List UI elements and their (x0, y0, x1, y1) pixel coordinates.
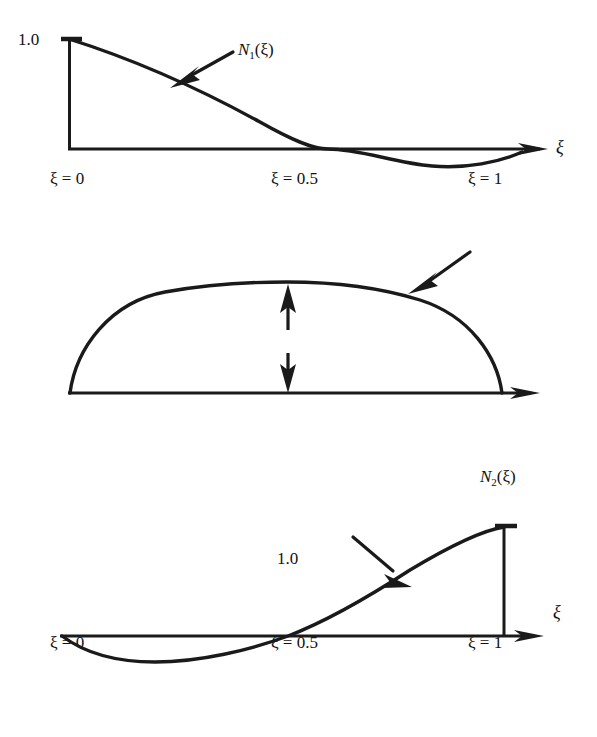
panel-n2-plot (0, 220, 597, 440)
function-label-n1: N1(ξ) (238, 41, 274, 61)
function-label-n1-name: N (238, 40, 249, 59)
annotation-arrow-n3 (353, 537, 412, 588)
peak-value-n1: 1.0 (18, 31, 39, 48)
ordinate-line-n1 (61, 39, 82, 149)
shape-function-figure: 1.0 N1(ξ) ξ ξ = 0 ξ = 0.5 ξ = 1 (0, 0, 597, 737)
panel-n3: 1.0 N3(ξ) ξ ξ = 0 ξ = 0.5 ξ = 1 (0, 470, 597, 737)
axis-label-n1: ξ (556, 138, 564, 156)
curve-n3 (62, 527, 504, 662)
dimension-arrow-n2 (280, 284, 296, 393)
panel-n2: 1.0 N2(ξ) ξ ξ = 0 ξ = 0.5 ξ = 1 (0, 220, 597, 440)
xi-axis (68, 387, 540, 399)
tick-label-n1-05: ξ = 0.5 (271, 170, 318, 187)
annotation-arrow-n1 (170, 52, 233, 88)
function-label-n1-arg: (ξ) (255, 40, 274, 59)
panel-n1: 1.0 N1(ξ) ξ ξ = 0 ξ = 0.5 ξ = 1 (0, 0, 597, 220)
tick-label-n1-1: ξ = 1 (468, 170, 502, 187)
panel-n3-plot (0, 470, 597, 737)
ordinate-line-n3 (495, 526, 517, 636)
tick-label-n1-0: ξ = 0 (50, 170, 84, 187)
annotation-arrow-n2 (408, 252, 470, 294)
